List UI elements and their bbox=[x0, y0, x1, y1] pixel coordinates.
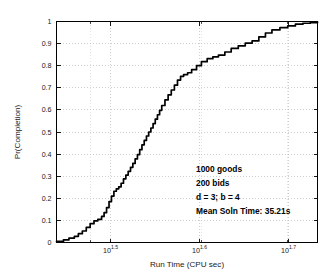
y-tick-label: 0.6 bbox=[42, 106, 52, 114]
y-tick-label: 0.9 bbox=[42, 40, 52, 48]
chart-canvas: 00.10.20.30.40.50.60.70.80.91 101.5101.6… bbox=[0, 0, 333, 280]
y-tick-label: 1 bbox=[48, 18, 52, 26]
annotation-line-mean-time: Mean Soln Time: 35.21s bbox=[196, 206, 291, 216]
y-tick-label: 0 bbox=[48, 239, 52, 247]
annotation-line-goods: 1000 goods bbox=[196, 164, 242, 174]
y-tick-label: 0.7 bbox=[42, 84, 52, 92]
cdf-runtime-figure: 00.10.20.30.40.50.60.70.80.91 101.5101.6… bbox=[0, 0, 333, 280]
y-axis-title: Pr(Completion) bbox=[13, 104, 22, 159]
y-tick-label: 0.8 bbox=[42, 62, 52, 70]
y-tick-label: 0.2 bbox=[42, 195, 52, 203]
x-axis-title: Run Time (CPU sec) bbox=[150, 260, 225, 269]
y-tick-label: 0.4 bbox=[42, 151, 52, 159]
y-tick-label: 0.3 bbox=[42, 173, 52, 181]
annotation-line-bids: 200 bids bbox=[196, 178, 230, 188]
y-tick-label: 0.5 bbox=[42, 129, 52, 137]
y-tick-label: 0.1 bbox=[42, 217, 52, 225]
annotation-line-params: d = 3; b = 4 bbox=[196, 192, 240, 202]
